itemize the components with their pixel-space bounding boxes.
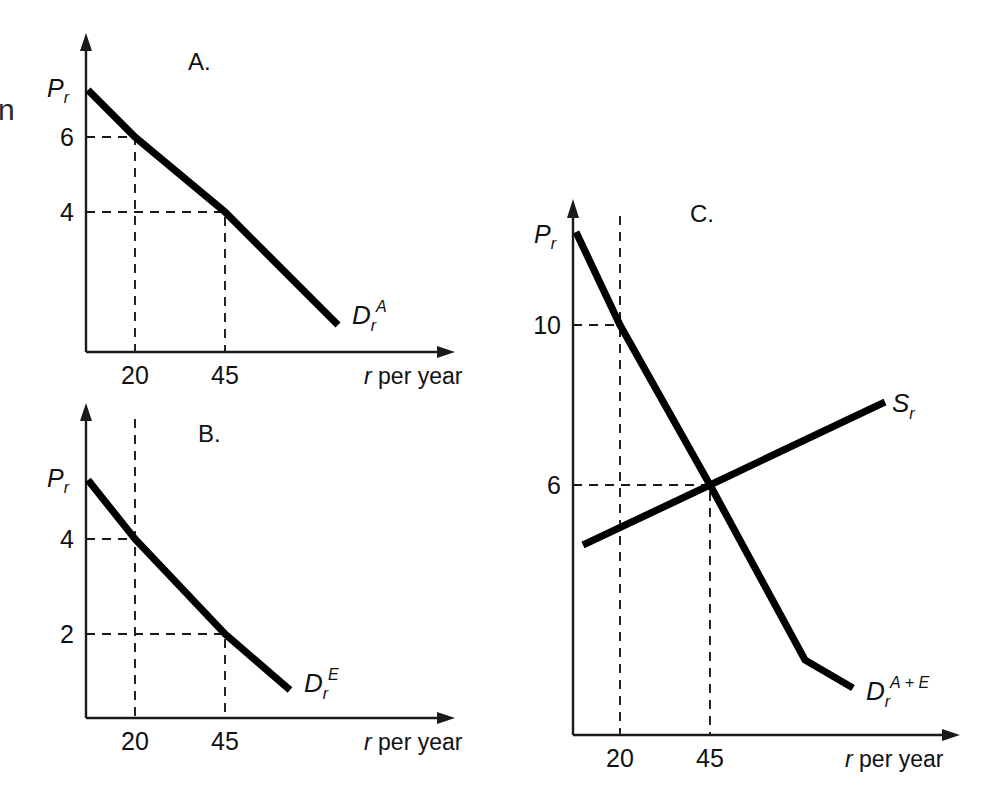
panel-a: A. Pr 6 4 20 45 r per year DrA	[47, 33, 463, 389]
panel-a-demand-curve	[88, 90, 338, 325]
panel-a-price-axis-label: Pr	[47, 74, 70, 106]
panel-a-x-axis-caption: r per year	[364, 363, 463, 389]
panel-c-x-axis-arrow	[942, 729, 960, 741]
panel-c-price-axis-label: Pr	[534, 220, 557, 252]
panel-c-supply-label: Sr	[892, 388, 915, 422]
panel-a-ytick-4: 4	[60, 198, 74, 226]
panel-b-xtick-45: 45	[211, 727, 239, 755]
panel-c-demand-label: DrA + E	[866, 674, 929, 710]
panel-b-x-axis-arrow	[437, 712, 455, 724]
panel-c-y-axis-arrow	[567, 199, 579, 218]
figure-canvas: n A. Pr 6 4 20 45 r p	[0, 0, 988, 812]
panel-c-demand-curve	[576, 232, 853, 688]
panel-a-title: A.	[188, 48, 211, 75]
panel-b-y-axis-arrow	[80, 403, 92, 421]
panel-b-x-axis-caption: r per year	[364, 729, 463, 755]
panel-b: B. Pr 4 2 20 45 r per year DrE	[47, 403, 463, 755]
panel-b-guide-2-45	[86, 634, 225, 718]
panel-c-xtick-20: 20	[606, 744, 634, 772]
panel-b-xtick-20: 20	[121, 727, 149, 755]
panel-a-xtick-45: 45	[211, 361, 239, 389]
panel-c-ytick-6: 6	[547, 471, 561, 499]
panel-a-x-axis-arrow	[437, 346, 455, 358]
panel-a-xtick-20: 20	[121, 361, 149, 389]
panel-a-guide-6-20	[86, 137, 135, 352]
economics-figure: n A. Pr 6 4 20 45 r p	[0, 0, 988, 812]
panel-b-price-axis-label: Pr	[47, 464, 70, 496]
panel-c-xtick-45: 45	[696, 744, 724, 772]
panel-a-ytick-6: 6	[60, 123, 74, 151]
panel-a-y-axis-arrow	[80, 33, 92, 51]
panel-c: C. Pr 10 6 20 45 r per year Sr DrA + E	[533, 199, 960, 772]
panel-c-guide-6-45	[573, 485, 710, 735]
panel-b-ytick-2: 2	[60, 620, 74, 648]
panel-b-demand-label: DrE	[304, 666, 339, 702]
panel-c-x-axis-caption: r per year	[845, 746, 944, 772]
panel-c-title: C.	[690, 200, 714, 227]
panel-b-ytick-4: 4	[60, 525, 74, 553]
panel-c-ytick-10: 10	[533, 311, 561, 339]
panel-a-guide-4-45	[86, 212, 225, 352]
panel-a-demand-label: DrA	[352, 298, 387, 334]
panel-b-title: B.	[198, 420, 221, 447]
panel-b-demand-curve	[88, 480, 290, 690]
margin-text-fragment: n	[0, 93, 15, 126]
